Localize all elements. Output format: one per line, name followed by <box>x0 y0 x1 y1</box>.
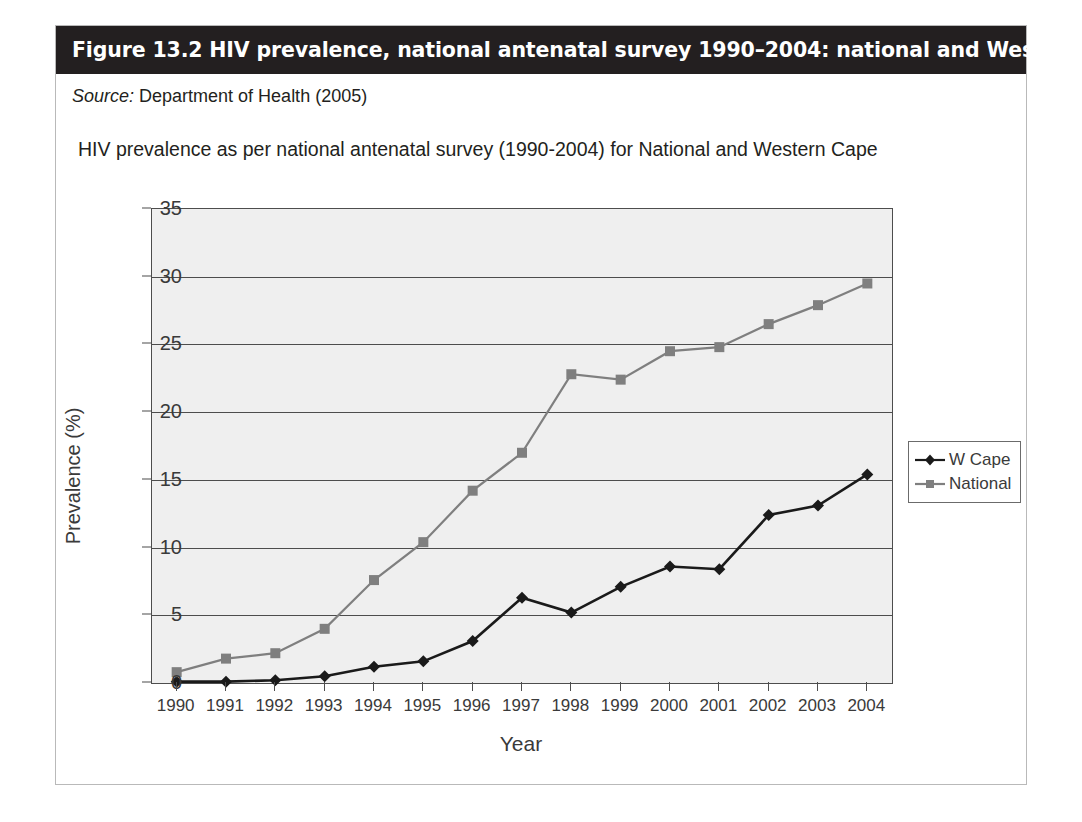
y-tick-mark <box>142 478 151 479</box>
data-point <box>565 607 577 619</box>
x-tick-mark <box>570 682 571 691</box>
data-point <box>368 661 380 673</box>
figure-caption-text: Figure 13.2 HIV prevalence, national ant… <box>56 38 1082 62</box>
chart-area: Prevalence (%) 05101520253035 1990199119… <box>56 176 1028 776</box>
x-tick-mark <box>373 682 374 691</box>
y-tick-mark <box>142 343 151 344</box>
data-point <box>862 278 872 288</box>
data-point <box>714 342 724 352</box>
data-point <box>517 448 527 458</box>
data-point <box>764 319 774 329</box>
x-tick-mark <box>521 682 522 691</box>
x-tick-label: 2000 <box>650 696 688 716</box>
chart-title: HIV prevalence as per national antenatal… <box>78 138 878 161</box>
x-tick-mark <box>324 682 325 691</box>
figure-caption-bar: Figure 13.2 HIV prevalence, national ant… <box>56 26 1026 74</box>
x-tick-label: 1996 <box>453 696 491 716</box>
y-tick-mark <box>142 411 151 412</box>
data-point <box>468 486 478 496</box>
x-tick-label: 1997 <box>502 696 540 716</box>
data-point <box>664 561 676 573</box>
data-point <box>665 346 675 356</box>
data-point <box>616 375 626 385</box>
y-tick-label: 25 <box>122 332 182 355</box>
legend-swatch-diamond-icon <box>915 453 945 467</box>
x-tick-mark <box>669 682 670 691</box>
x-tick-label: 1991 <box>206 696 244 716</box>
y-tick-label: 35 <box>122 197 182 220</box>
x-tick-label: 1999 <box>601 696 639 716</box>
source-value: Department of Health (2005) <box>134 86 367 106</box>
data-point <box>221 654 231 664</box>
y-tick-label: 5 <box>122 603 182 626</box>
x-tick-label: 1995 <box>403 696 441 716</box>
data-point <box>861 468 873 480</box>
x-tick-label: 1993 <box>305 696 343 716</box>
legend-item-w-cape[interactable]: W Cape <box>915 448 1011 472</box>
x-axis-ticks: 1990199119921993199419951996199719981999… <box>151 682 891 728</box>
x-axis-title: Year <box>151 732 891 756</box>
x-tick-label: 1998 <box>551 696 589 716</box>
data-point <box>319 670 331 682</box>
data-point <box>270 648 280 658</box>
x-tick-mark <box>620 682 621 691</box>
x-tick-label: 1994 <box>354 696 392 716</box>
x-tick-label: 1990 <box>157 696 195 716</box>
legend-label-national: National <box>949 474 1011 494</box>
data-point <box>369 575 379 585</box>
source-label: Source: <box>72 86 134 106</box>
legend-item-national[interactable]: National <box>915 472 1011 496</box>
series-lines <box>152 209 892 683</box>
x-tick-mark <box>768 682 769 691</box>
y-axis-title: Prevalence (%) <box>62 311 85 641</box>
x-tick-mark <box>472 682 473 691</box>
chart-legend: W Cape National <box>908 441 1021 503</box>
x-tick-mark <box>718 682 719 691</box>
plot-area <box>151 208 893 684</box>
y-tick-label: 15 <box>122 467 182 490</box>
data-point <box>813 300 823 310</box>
y-tick-label: 30 <box>122 264 182 287</box>
x-tick-mark <box>866 682 867 691</box>
x-tick-label: 2003 <box>798 696 836 716</box>
x-tick-mark <box>274 682 275 691</box>
y-tick-mark <box>142 614 151 615</box>
data-point <box>418 537 428 547</box>
data-point <box>320 624 330 634</box>
y-tick-mark <box>142 208 151 209</box>
y-tick-mark <box>142 682 151 683</box>
data-point <box>566 369 576 379</box>
source-line: Source: Department of Health (2005) <box>72 86 367 107</box>
y-tick-mark <box>142 546 151 547</box>
series-line-national <box>177 283 868 672</box>
x-tick-mark <box>817 682 818 691</box>
data-point <box>812 500 824 512</box>
y-tick-label: 20 <box>122 400 182 423</box>
x-tick-mark <box>225 682 226 691</box>
y-tick-label: 10 <box>122 535 182 558</box>
data-point <box>615 581 627 593</box>
legend-label-w-cape: W Cape <box>949 450 1010 470</box>
data-point <box>417 655 429 667</box>
x-tick-mark <box>176 682 177 691</box>
figure-frame: Figure 13.2 HIV prevalence, national ant… <box>55 25 1027 785</box>
legend-swatch-square-icon <box>915 477 945 491</box>
x-tick-mark <box>422 682 423 691</box>
x-tick-label: 2004 <box>847 696 885 716</box>
x-tick-label: 2002 <box>749 696 787 716</box>
x-tick-label: 2001 <box>699 696 737 716</box>
x-tick-label: 1992 <box>255 696 293 716</box>
y-tick-mark <box>142 275 151 276</box>
